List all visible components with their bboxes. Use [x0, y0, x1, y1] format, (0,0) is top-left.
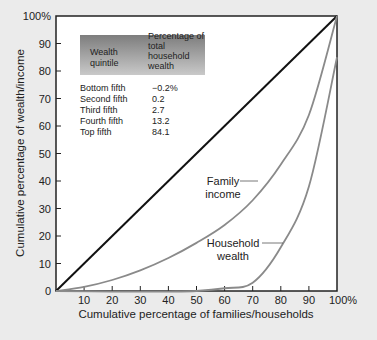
- x-tick-label: 60: [218, 294, 230, 306]
- svg-text:wealth: wealth: [216, 250, 249, 262]
- y-tick-label: 30: [39, 203, 51, 215]
- x-tick-label: 10: [78, 294, 90, 306]
- x-tick-label: 20: [106, 294, 118, 306]
- table-row: Fourth fifth13.2: [80, 116, 205, 127]
- y-tick-label: 60: [39, 120, 51, 132]
- y-tick-label: 10: [39, 258, 51, 270]
- table-body: Bottom fifth−0.2% Second fifth0.2 Third …: [80, 75, 205, 138]
- header-percentage: Percentage of total household wealth: [148, 31, 205, 71]
- table-header: Wealth quintile Percentage of total hous…: [80, 35, 205, 75]
- x-tick-label: 100%: [329, 294, 357, 306]
- x-axis-title: Cumulative percentage of families/househ…: [78, 308, 313, 320]
- y-tick-label: 70: [39, 93, 51, 105]
- x-tick-label: 30: [134, 294, 146, 306]
- table-row: Second fifth0.2: [80, 94, 205, 105]
- x-tick-label: 40: [162, 294, 174, 306]
- y-axis-title: Cumulative percentage of wealth/income: [14, 49, 26, 257]
- x-tick-label: 90: [303, 294, 315, 306]
- svg-text:Family: Family: [207, 175, 240, 187]
- table-row: Top fifth84.1: [80, 127, 205, 138]
- y-tick-label: 40: [39, 175, 51, 187]
- x-tick-label: 50: [190, 294, 202, 306]
- x-tick-label: 80: [275, 294, 287, 306]
- table-row: Bottom fifth−0.2%: [80, 83, 205, 94]
- y-tick-label: 100%: [23, 10, 51, 22]
- y-tick-label: 0: [45, 285, 51, 297]
- table-row: Third fifth2.7: [80, 105, 205, 116]
- wealth-quintile-table: Wealth quintile Percentage of total hous…: [80, 35, 205, 138]
- y-tick-label: 80: [39, 65, 51, 77]
- y-tick-label: 50: [39, 148, 51, 160]
- y-tick-label: 20: [39, 230, 51, 242]
- x-tick-label: 70: [247, 294, 259, 306]
- svg-text:income: income: [205, 188, 240, 200]
- svg-text:Household: Household: [207, 237, 260, 249]
- header-wealth-quintile: Wealth quintile: [80, 47, 148, 71]
- y-tick-label: 90: [39, 38, 51, 50]
